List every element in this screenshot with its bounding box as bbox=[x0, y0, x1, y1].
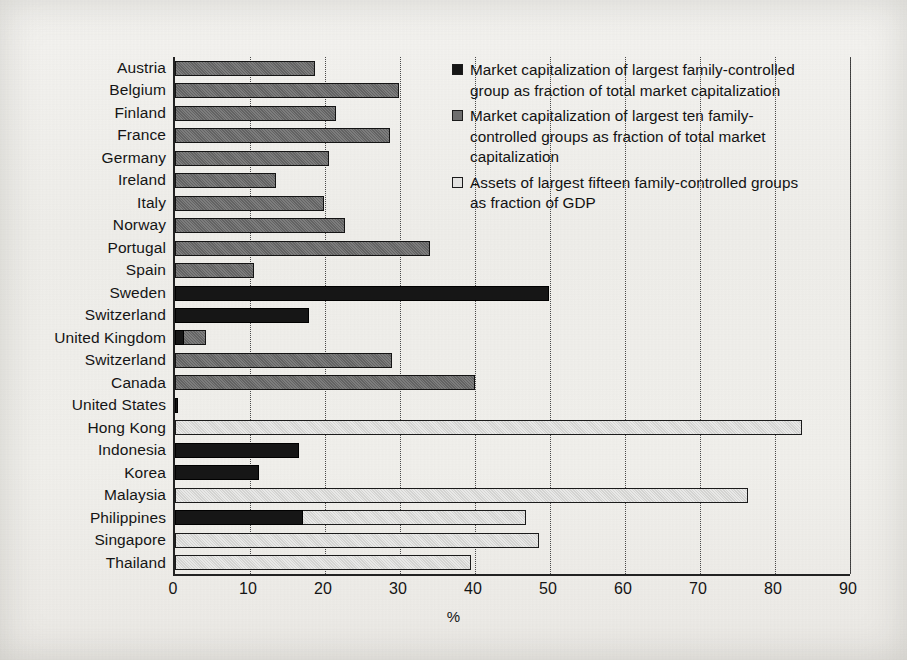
x-tick-label: 0 bbox=[169, 580, 178, 598]
category-label: Singapore bbox=[94, 529, 166, 551]
bar-largest_fifteen_assets bbox=[175, 488, 748, 503]
bar-largest_ten bbox=[175, 173, 276, 188]
category-label: United States bbox=[72, 394, 166, 416]
category-label: Canada bbox=[111, 372, 166, 394]
bar-largest_ten bbox=[175, 83, 399, 98]
bar-row: Switzerland bbox=[175, 304, 850, 326]
legend-swatch-largest-one-icon bbox=[452, 64, 463, 75]
x-tick-label: 30 bbox=[389, 580, 407, 598]
bar-largest_ten bbox=[175, 241, 430, 256]
category-label: Ireland bbox=[118, 169, 166, 191]
chart-legend: Market capitalization of largest family-… bbox=[452, 60, 812, 219]
bar-row: United States bbox=[175, 394, 850, 416]
bar-row: Spain bbox=[175, 259, 850, 281]
bar-largest_ten bbox=[175, 375, 475, 390]
bar-largest_ten bbox=[175, 353, 392, 368]
bar-largest_fifteen_assets bbox=[175, 533, 539, 548]
x-tick-label: 10 bbox=[239, 580, 257, 598]
legend-label: Assets of largest fifteen family-control… bbox=[470, 173, 812, 214]
category-label: Italy bbox=[137, 192, 166, 214]
category-label: Portugal bbox=[107, 237, 166, 259]
legend-label: Market capitalization of largest family-… bbox=[470, 60, 812, 101]
bar-row: Hong Kong bbox=[175, 417, 850, 439]
bar-largest_ten bbox=[175, 218, 345, 233]
bar-largest_one bbox=[175, 308, 309, 323]
category-label: Indonesia bbox=[98, 439, 166, 461]
x-tick-label: 40 bbox=[464, 580, 482, 598]
category-label: Philippines bbox=[90, 507, 166, 529]
x-tick-label: 20 bbox=[314, 580, 332, 598]
bar-row: Thailand bbox=[175, 552, 850, 574]
bar-row: Canada bbox=[175, 372, 850, 394]
bar-largest_one bbox=[175, 398, 178, 413]
bar-row: United Kingdom bbox=[175, 327, 850, 349]
category-label: Thailand bbox=[106, 552, 166, 574]
legend-label: Market capitalization of largest ten fam… bbox=[470, 106, 812, 168]
category-label: Norway bbox=[113, 214, 166, 236]
bar-largest_one bbox=[175, 330, 184, 345]
bar-largest_ten bbox=[175, 151, 329, 166]
legend-item: Market capitalization of largest ten fam… bbox=[452, 106, 812, 168]
bar-largest_fifteen_assets bbox=[175, 555, 471, 570]
category-label: Malaysia bbox=[104, 484, 166, 506]
legend-item: Assets of largest fifteen family-control… bbox=[452, 173, 812, 214]
bar-row: Philippines bbox=[175, 507, 850, 529]
category-label: Switzerland bbox=[85, 349, 166, 371]
bar-row: Malaysia bbox=[175, 484, 850, 506]
bar-largest_fifteen_assets bbox=[175, 420, 802, 435]
bar-largest_one bbox=[175, 465, 259, 480]
bar-row: Korea bbox=[175, 462, 850, 484]
legend-swatch-largest-fifteen-icon bbox=[452, 177, 463, 188]
bar-row: Indonesia bbox=[175, 439, 850, 461]
x-axis-title: % bbox=[0, 608, 907, 625]
category-label: Austria bbox=[117, 57, 166, 79]
bar-row: Sweden bbox=[175, 282, 850, 304]
category-label: United Kingdom bbox=[54, 327, 166, 349]
bar-row: Portugal bbox=[175, 237, 850, 259]
category-label: Germany bbox=[102, 147, 166, 169]
x-tick-label: 90 bbox=[839, 580, 857, 598]
bar-largest_one bbox=[175, 510, 303, 525]
category-label: Korea bbox=[124, 462, 166, 484]
category-label: Finland bbox=[114, 102, 166, 124]
gridline bbox=[850, 57, 851, 574]
bar-largest_ten bbox=[175, 263, 254, 278]
x-tick-label: 80 bbox=[764, 580, 782, 598]
category-label: Hong Kong bbox=[88, 417, 166, 439]
bar-largest_ten bbox=[175, 128, 390, 143]
category-label: Sweden bbox=[109, 282, 166, 304]
bar-largest_one bbox=[175, 286, 549, 301]
legend-item: Market capitalization of largest family-… bbox=[452, 60, 812, 101]
category-label: Switzerland bbox=[85, 304, 166, 326]
bar-largest_ten bbox=[175, 106, 336, 121]
legend-swatch-largest-ten-icon bbox=[452, 110, 463, 121]
bar-largest_ten bbox=[175, 61, 315, 76]
bar-chart: AustriaBelgiumFinlandFranceGermanyIrelan… bbox=[0, 0, 907, 660]
x-tick-label: 50 bbox=[539, 580, 557, 598]
bar-row: Switzerland bbox=[175, 349, 850, 371]
category-label: France bbox=[117, 124, 166, 146]
x-tick-label: 70 bbox=[689, 580, 707, 598]
bar-largest_ten bbox=[175, 196, 324, 211]
category-label: Belgium bbox=[109, 79, 166, 101]
category-label: Spain bbox=[126, 259, 166, 281]
bar-largest_one bbox=[175, 443, 299, 458]
bar-row: Singapore bbox=[175, 529, 850, 551]
x-tick-label: 60 bbox=[614, 580, 632, 598]
